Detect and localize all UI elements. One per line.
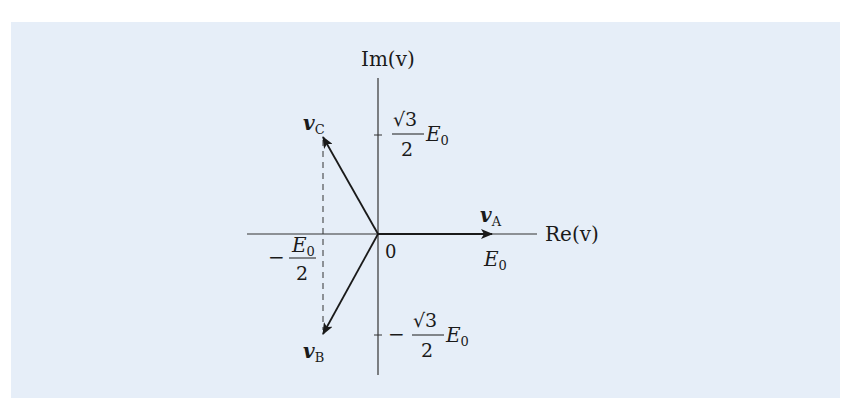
svg-text:−: − xyxy=(268,245,285,269)
svg-text:2: 2 xyxy=(296,262,308,284)
vector-c xyxy=(323,137,378,234)
re-axis-label: Re(v) xyxy=(545,222,599,246)
origin-label: 0 xyxy=(385,241,396,262)
vector-b xyxy=(323,234,378,334)
vector-c-label: vC xyxy=(303,111,325,137)
svg-text:E0: E0 xyxy=(445,323,469,349)
re-tick-neg-half-label: − E0 2 xyxy=(268,233,316,284)
svg-text:√3: √3 xyxy=(413,309,437,331)
svg-text:2: 2 xyxy=(421,339,433,361)
im-axis-label: Im(v) xyxy=(361,47,415,71)
re-tick-e0-label: E0 xyxy=(483,247,507,273)
vector-a-label: vA xyxy=(480,203,502,229)
svg-text:√3: √3 xyxy=(393,108,417,130)
phasor-diagram: Im(v) Re(v) 0 vC vA vB E0 − E0 2 √3 2 E0… xyxy=(0,0,852,406)
svg-text:−: − xyxy=(388,322,405,346)
vector-b-label: vB xyxy=(303,339,324,365)
svg-text:E0: E0 xyxy=(291,233,315,259)
im-tick-neg-label: − √3 2 E0 xyxy=(388,309,469,361)
svg-text:2: 2 xyxy=(401,138,413,160)
svg-text:E0: E0 xyxy=(425,122,449,148)
im-tick-pos-label: √3 2 E0 xyxy=(392,108,449,160)
